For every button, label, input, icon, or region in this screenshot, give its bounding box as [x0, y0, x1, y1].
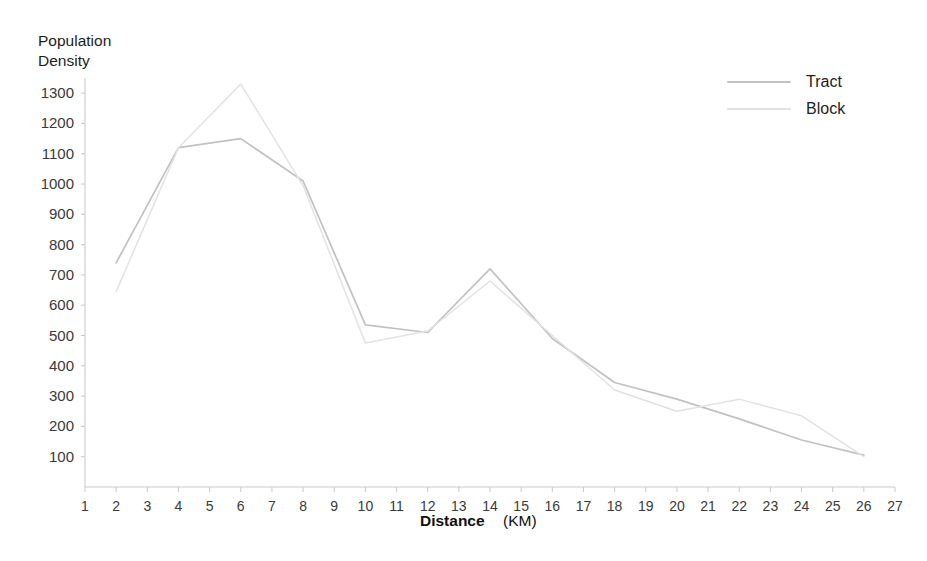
x-tick-label: 11	[389, 498, 404, 514]
x-tick-label: 23	[763, 498, 779, 514]
y-tick-label: 1100	[42, 145, 74, 162]
x-tick-label: 24	[794, 498, 810, 514]
x-tick-label: 2	[112, 498, 120, 514]
x-tick-label: 17	[576, 498, 592, 514]
x-tick-label: 19	[638, 498, 654, 514]
x-tick-label: 9	[330, 498, 338, 514]
x-tick-label: 26	[856, 498, 872, 514]
y-tick-label: 100	[49, 448, 74, 465]
x-tick-label: 25	[825, 498, 841, 514]
legend-label-block: Block	[806, 100, 846, 117]
y-axis-title-line1: Population	[38, 32, 111, 49]
y-tick-label: 600	[49, 296, 74, 313]
y-tick-label: 800	[49, 236, 74, 253]
x-tick-label: 18	[607, 498, 623, 514]
x-tick-label: 3	[143, 498, 151, 514]
x-tick-label: 5	[206, 498, 214, 514]
x-tick-label: 27	[887, 498, 903, 514]
line-chart: Population Density 100200300400500600700…	[0, 0, 927, 561]
y-tick-label: 1000	[41, 175, 74, 192]
x-tick-label: 22	[731, 498, 747, 514]
chart-legend: Tract Block	[728, 73, 846, 117]
x-tick-label: 8	[299, 498, 307, 514]
y-axis-title-line2: Density	[38, 52, 90, 69]
x-axis-title-unit: (KM)	[503, 512, 537, 529]
x-axis-title: Distance	[420, 512, 485, 529]
x-tick-label: 6	[237, 498, 245, 514]
x-tick-label: 20	[669, 498, 685, 514]
y-tick-label: 400	[49, 357, 74, 374]
chart-canvas: Population Density 100200300400500600700…	[0, 0, 927, 561]
x-tick-label: 10	[358, 498, 374, 514]
data-series-group	[116, 84, 864, 457]
y-tick-label: 700	[49, 266, 74, 283]
y-tick-label: 200	[49, 417, 74, 434]
x-tick-label: 7	[268, 498, 276, 514]
x-tick-label: 16	[545, 498, 561, 514]
y-tick-label: 1200	[41, 114, 74, 131]
y-axis-ticks: 1002003004005006007008009001000110012001…	[41, 84, 85, 465]
y-tick-label: 300	[49, 387, 74, 404]
y-tick-label: 500	[49, 327, 74, 344]
y-tick-label: 900	[49, 205, 74, 222]
x-tick-label: 4	[175, 498, 183, 514]
legend-label-tract: Tract	[806, 73, 842, 90]
x-tick-label: 1	[81, 498, 89, 514]
x-axis-ticks: 1234567891011121314151617181920212223242…	[81, 487, 903, 514]
y-tick-label: 1300	[41, 84, 74, 101]
x-tick-label: 21	[700, 498, 716, 514]
series-line-tract	[116, 139, 864, 456]
